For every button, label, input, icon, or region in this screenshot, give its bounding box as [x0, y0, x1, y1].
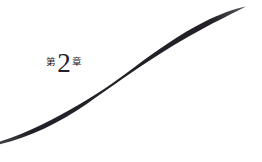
chapter-divider-page: 第 2 章 [0, 0, 262, 162]
chapter-prefix-label: 第 [46, 58, 56, 68]
chapter-suffix-label: 章 [72, 58, 82, 68]
page-title: 第 2 章 [42, 50, 86, 78]
brush-stroke-swash-icon [0, 0, 262, 162]
chapter-number: 2 [57, 50, 71, 77]
